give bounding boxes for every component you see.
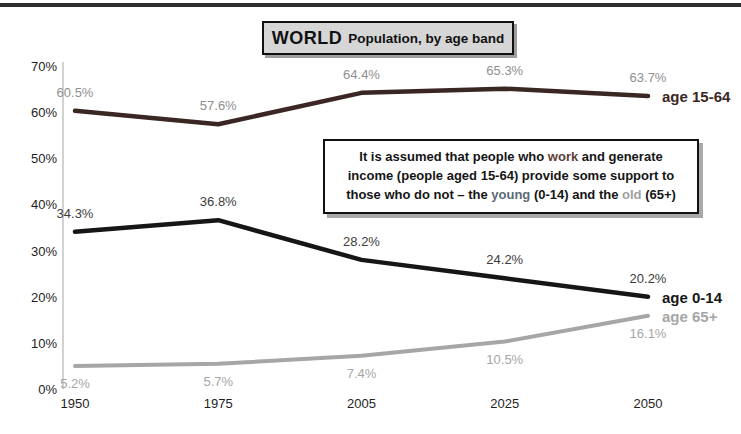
data-label: 64.4% (327, 66, 397, 83)
series-end-label: age 65+ (662, 307, 717, 326)
data-label: 36.8% (183, 193, 253, 210)
annotation-word-old: old (622, 187, 642, 202)
data-label: 20.2% (613, 270, 683, 287)
y-tick-label: 60% (7, 105, 57, 121)
data-label: 34.3% (40, 205, 110, 222)
data-label: 7.4% (327, 365, 397, 382)
annotation-word-work: work (548, 149, 578, 164)
series-line-age-0-14 (75, 220, 648, 297)
data-label: 10.5% (470, 351, 540, 368)
y-tick-label: 20% (7, 290, 57, 306)
annotation-box: It is assumed that people who work and g… (323, 139, 699, 214)
x-tick-label: 2050 (618, 396, 678, 412)
annotation-word-young: young (491, 187, 530, 202)
y-tick-label: 30% (7, 244, 57, 260)
data-label: 5.7% (183, 373, 253, 390)
data-label: 65.3% (470, 62, 540, 79)
data-label: 60.5% (40, 84, 110, 101)
y-tick-label: 10% (7, 336, 57, 352)
chart-figure: WORLD Population, by age band 70%60%50%4… (0, 0, 741, 434)
series-line-age-15-64 (75, 89, 648, 125)
x-tick-label: 2005 (332, 396, 392, 412)
series-line-age-65+ (75, 316, 648, 366)
series-end-label: age 15-64 (662, 87, 730, 106)
x-tick-label: 1950 (45, 396, 105, 412)
annotation-text: (0-14) and the (530, 187, 622, 202)
data-label: 5.2% (40, 375, 110, 392)
annotation-text: It is assumed that people who (359, 149, 548, 164)
y-tick-label: 50% (7, 151, 57, 167)
data-label: 28.2% (327, 233, 397, 250)
data-label: 16.1% (613, 325, 683, 342)
data-label: 57.6% (183, 97, 253, 114)
series-end-label: age 0-14 (662, 288, 722, 307)
x-tick-label: 2025 (475, 396, 535, 412)
x-tick-label: 1975 (188, 396, 248, 412)
data-label: 63.7% (613, 69, 683, 86)
y-tick-label: 70% (7, 59, 57, 75)
data-label: 24.2% (470, 251, 540, 268)
annotation-text: (65+) (642, 187, 676, 202)
